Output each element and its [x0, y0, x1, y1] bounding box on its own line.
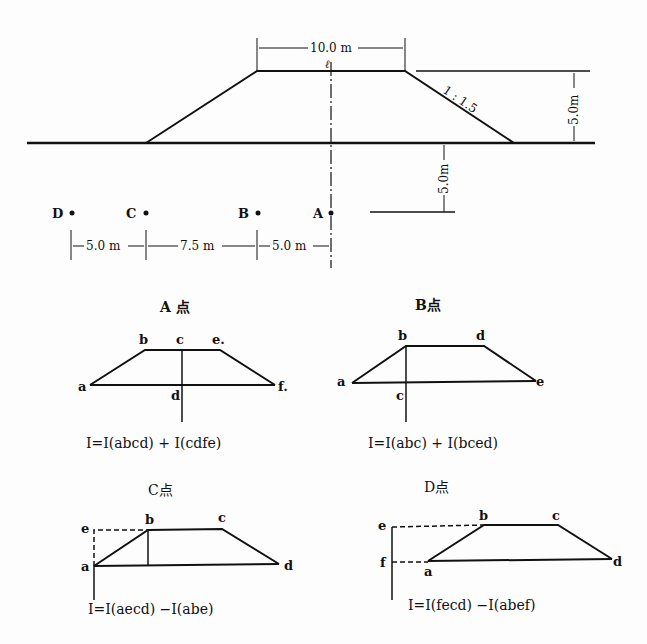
label-d: d — [613, 554, 622, 569]
panel-d-equation: I=I(fecd) −I(abef) — [408, 597, 535, 613]
label-c: c — [552, 508, 560, 523]
label-b: b — [479, 508, 488, 523]
label-a: a — [424, 564, 433, 579]
panel-d-title: D点 — [424, 479, 449, 495]
label-e: e — [378, 518, 386, 533]
label-f: f — [380, 555, 387, 570]
panel-d: D点 e b c f a d I=I(fecd) −I(abef) — [0, 0, 647, 644]
